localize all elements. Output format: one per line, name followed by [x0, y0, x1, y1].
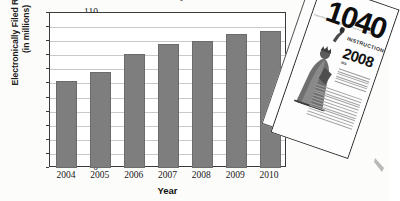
bar	[158, 44, 179, 168]
plot-area	[49, 12, 286, 167]
bar	[192, 41, 213, 168]
x-axis-tick-label: 2007	[151, 170, 185, 180]
bar	[90, 72, 111, 168]
x-axis-tick-label: 2005	[83, 170, 117, 180]
x-axis-tick-label: 2004	[49, 170, 83, 180]
x-axis-tick-label: 2009	[218, 170, 252, 180]
booklet-cover-text-block-1	[334, 68, 370, 93]
bar	[56, 81, 77, 168]
y-axis-title: Electronically Filed Returns (in million…	[10, 0, 32, 102]
bar	[124, 54, 145, 168]
irs-1040-booklet-photo: Department of the Treasury Internal Reve…	[283, 0, 387, 162]
bar	[226, 34, 247, 168]
booklet-front-cover: Department of the Treasury Internal Reve…	[271, 0, 400, 159]
booklet-cover-text-block-2	[306, 84, 362, 131]
gridline	[50, 27, 285, 28]
x-axis-title: Year	[49, 185, 286, 196]
y-axis-tick-mark	[46, 167, 49, 168]
x-axis-tick-label: 2008	[184, 170, 218, 180]
y-axis-title-line2: (in millions)	[20, 0, 31, 102]
booklet-cover-inner: Department of the Treasury Internal Reve…	[272, 0, 398, 158]
y-axis-title-line1: Electronically Filed Returns	[10, 0, 20, 86]
gridline	[50, 41, 285, 42]
scan-corner-mark-icon	[373, 156, 387, 174]
x-axis-tick-label: 2006	[117, 170, 151, 180]
x-axis-tick-label: 2010	[252, 170, 286, 180]
